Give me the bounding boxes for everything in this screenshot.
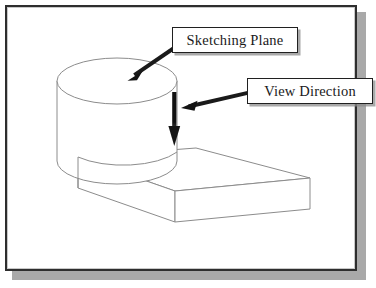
figure-canvas: Sketching Plane View Direction <box>0 0 376 288</box>
leader-view-direction <box>181 91 250 111</box>
callout-view-direction-label: View Direction <box>264 83 356 100</box>
callout-sketching-plane-label: Sketching Plane <box>187 32 284 49</box>
callout-view-direction: View Direction <box>247 78 373 104</box>
leader-arrowhead-view-direction <box>181 101 198 111</box>
leader-line-view-direction <box>188 91 250 109</box>
callout-sketching-plane: Sketching Plane <box>172 27 298 53</box>
cylinder-group <box>57 58 177 188</box>
cylinder-top-face <box>57 58 177 104</box>
